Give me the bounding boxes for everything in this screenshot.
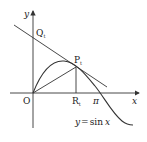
sine-tangent-diagram: y x O Qt Pt Rt π y=sinx — [0, 0, 147, 142]
y-axis-label: y — [23, 9, 30, 19]
origin-label: O — [23, 96, 30, 106]
curve-equation-label: y=sinx — [74, 117, 110, 127]
pi-tick-label: π — [92, 96, 100, 106]
point-r-label: Rt — [72, 96, 81, 107]
point-p-label: Pt — [74, 55, 82, 66]
x-axis-label: x — [132, 96, 137, 106]
point-q-label: Qt — [36, 28, 45, 39]
tangent-line — [14, 25, 107, 87]
